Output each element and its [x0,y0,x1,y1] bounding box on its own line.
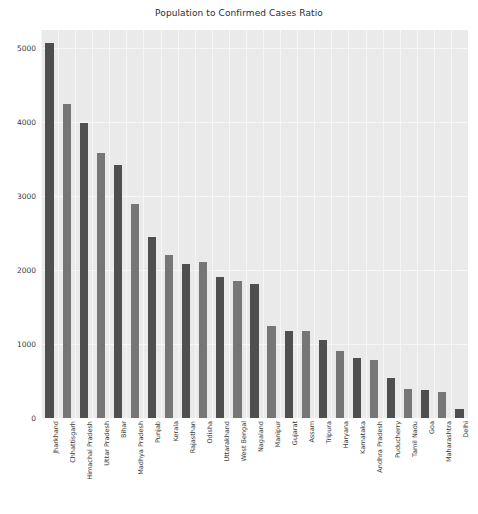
x-tick-label: Haryana [342,421,350,448]
y-tick-label: 1000 [17,340,36,349]
bar [182,264,190,418]
bar [285,331,293,418]
bar [302,331,310,418]
x-tick-label: Rajasthan [189,421,197,453]
bar [421,390,429,418]
gridline-vertical [297,30,298,418]
x-tick-label: Tripura [325,421,333,443]
x-tick-label: Andhra Pradesh [376,421,384,473]
bar [438,392,446,418]
x-tick-label: Maharashtra [445,421,453,462]
gridline-vertical [161,30,162,418]
x-tick-label: Jharkhand [52,421,60,454]
gridline-vertical [75,30,76,418]
x-tick-label: Puducherry [394,421,402,458]
x-tick-label: Delhi [462,421,470,438]
bar [353,358,361,418]
gridline-vertical [263,30,264,418]
x-tick-label: Karnataka [359,421,367,454]
y-tick-label: 4000 [17,118,36,127]
bar [233,281,241,418]
bar [370,360,378,418]
x-axis: JharkhandChhattisgarhHimachal PradeshUtt… [41,419,468,511]
bar [63,104,71,418]
x-tick-label: Kerala [172,421,180,441]
gridline-horizontal [41,48,468,49]
gridline-vertical [383,30,384,418]
x-tick-label: Odisha [206,421,214,444]
gridline-horizontal [41,196,468,197]
gridline-vertical [314,30,315,418]
x-tick-label: Goa [428,421,436,434]
gridline-vertical [417,30,418,418]
y-tick-label: 5000 [17,44,36,53]
gridline-horizontal [41,270,468,271]
gridline-vertical [366,30,367,418]
bar [45,43,53,418]
bar [455,409,463,418]
bar [199,262,207,418]
bar [267,326,275,418]
x-tick-label: Bihar [120,421,128,438]
gridline-vertical [434,30,435,418]
bar [97,153,105,418]
y-tick-label: 3000 [17,192,36,201]
x-tick-label: Uttarakhand [223,421,231,462]
gridline-vertical [58,30,59,418]
x-tick-label: Nagaland [257,421,265,452]
gridline-horizontal [41,122,468,123]
y-axis: 010002000300040005000 [0,30,41,418]
gridline-vertical [451,30,452,418]
x-tick-label: Assam [308,421,316,443]
y-tick-label: 0 [31,414,36,423]
gridline-vertical [280,30,281,418]
x-tick-label: Punjab [154,421,162,443]
gridline-vertical [246,30,247,418]
bar [114,165,122,418]
gridline-vertical [331,30,332,418]
x-tick-label: Uttar Pradesh [103,421,111,466]
gridline-vertical [348,30,349,418]
bar [216,277,224,418]
x-tick-label: Tamil Nadu [411,421,419,457]
x-tick-label: Madhya Pradesh [137,421,145,475]
chart-title: Population to Confirmed Cases Ratio [0,8,478,18]
gridline-vertical [212,30,213,418]
bar [336,351,344,418]
gridline-vertical [109,30,110,418]
bar [131,204,139,418]
bar [319,340,327,418]
bar [165,255,173,418]
gridline-vertical [178,30,179,418]
x-tick-label: Himachal Pradesh [86,421,94,480]
gridline-vertical [400,30,401,418]
gridline-vertical [195,30,196,418]
bar [404,389,412,418]
bar [250,284,258,419]
y-tick-label: 2000 [17,266,36,275]
gridline-vertical [126,30,127,418]
x-tick-label: Gujarat [291,421,299,445]
bar [148,237,156,418]
gridline-vertical [41,30,42,418]
x-tick-label: Manipur [274,421,282,447]
chart-figure: Population to Confirmed Cases Ratio 0100… [0,0,478,514]
x-tick-label: West Bengal [240,421,248,462]
bar [80,123,88,418]
gridline-vertical [92,30,93,418]
x-tick-label: Chhattisgarh [69,421,77,463]
gridline-vertical [143,30,144,418]
gridline-vertical [229,30,230,418]
bar [387,378,395,418]
plot-area [41,30,468,418]
